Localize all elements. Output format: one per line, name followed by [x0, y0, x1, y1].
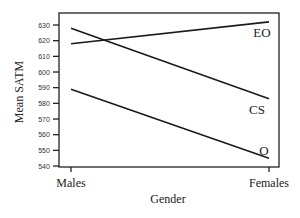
series-label-eo: EO	[253, 25, 270, 40]
series-line-eo	[71, 22, 269, 44]
series-label-o: O	[259, 143, 268, 158]
y-axis-ticks: 540550560570580590600610620630	[38, 22, 59, 170]
y-axis-title: Mean SATM	[12, 61, 26, 124]
x-tick-label-males: Males	[56, 176, 86, 190]
line-chart: 540550560570580590600610620630 Males Fem…	[0, 0, 300, 218]
y-tick-label: 570	[38, 116, 50, 123]
series-line-cs	[71, 28, 269, 99]
x-axis-ticks: Males Females	[56, 167, 289, 190]
y-tick-label: 630	[38, 22, 50, 29]
series-label-cs: CS	[249, 102, 265, 117]
y-tick-label: 550	[38, 147, 50, 154]
y-tick-label: 560	[38, 131, 50, 138]
y-tick-label: 540	[38, 163, 50, 170]
y-tick-label: 620	[38, 37, 50, 44]
y-tick-label: 580	[38, 100, 50, 107]
y-tick-label: 590	[38, 84, 50, 91]
y-tick-label: 610	[38, 53, 50, 60]
series-line-o	[71, 89, 269, 158]
series-lines	[71, 22, 269, 158]
x-tick-label-females: Females	[249, 176, 289, 190]
x-axis-title: Gender	[150, 192, 185, 206]
y-tick-label: 600	[38, 69, 50, 76]
